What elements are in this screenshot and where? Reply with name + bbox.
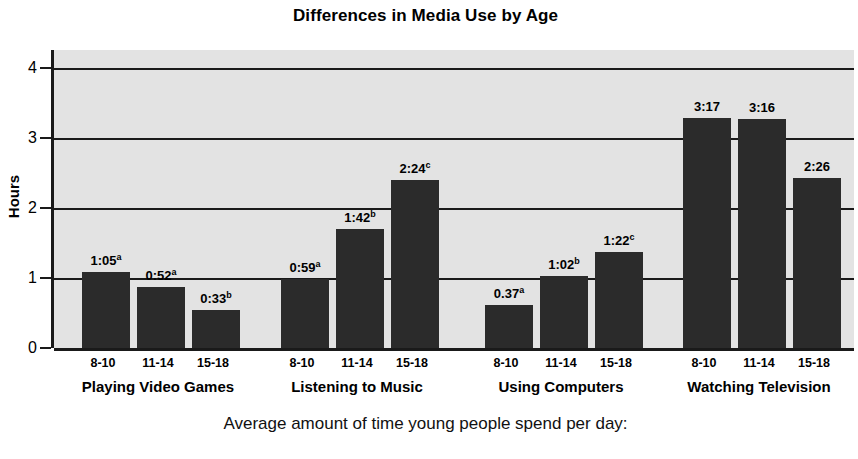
age-tick-label: 15-18 [183,355,243,371]
age-tick-label: 8-10 [73,355,133,371]
bar [738,119,786,348]
y-tick-3: 3 [0,128,51,148]
bar [391,180,439,348]
gridline-4 [54,68,854,70]
bar-value-label: 0:59a [269,261,341,275]
bar-value-label: 1:42b [324,211,396,225]
y-tick-mark-4 [40,67,51,69]
age-tick-label: 11-14 [128,355,188,371]
gridline-3 [54,138,854,140]
y-tick-label-4: 4 [28,58,37,78]
y-tick-mark-2 [40,207,51,209]
chart-title: Differences in Media Use by Age [0,6,851,26]
group-label: Watching Television [609,377,858,397]
bar-value-label: 1:02b [528,258,600,272]
y-tick-label-0: 0 [28,338,37,358]
age-tick-label: 8-10 [476,355,536,371]
y-tick-mark-1 [40,277,51,279]
bar [540,276,588,348]
bar [281,279,329,348]
bar [336,229,384,348]
bar [82,272,130,348]
bar-value-label: 0:52a [125,269,197,283]
y-tick-label-2: 2 [28,198,37,218]
age-tick-label: 15-18 [382,355,442,371]
plot-area: 1:05a0:52a0:33b0:59a1:42b2:24c0.37a1:02b… [51,50,854,348]
age-tick-label: 11-14 [531,355,591,371]
y-tick-label-3: 3 [28,128,37,148]
bar-value-label: 1:22c [583,234,655,248]
bar-value-label: 1:05a [70,254,142,268]
bar [595,252,643,348]
gridline-0 [54,348,854,351]
y-tick-0: 0 [0,338,51,358]
age-tick-label: 15-18 [784,355,844,371]
gridline-2 [54,208,854,210]
bar-value-label: 0:33b [180,292,252,306]
age-tick-label: 8-10 [272,355,332,371]
bar [192,310,240,349]
y-tick-1: 1 [0,268,51,288]
bar [683,118,731,348]
bar [793,178,841,348]
y-tick-mark-0 [40,347,51,349]
bar-value-label: 2:26 [781,160,853,174]
y-tick-label-1: 1 [28,268,37,288]
chart-caption: Average amount of time young people spen… [0,414,851,434]
bar [137,287,185,348]
bar-value-label: 3:16 [726,101,798,115]
age-tick-label: 11-14 [327,355,387,371]
bar-value-label: 0.37a [473,287,545,301]
y-tick-2: 2 [0,198,51,218]
y-tick-mark-3 [40,137,51,139]
age-tick-label: 11-14 [729,355,789,371]
y-tick-4: 4 [0,58,51,78]
age-tick-label: 8-10 [674,355,734,371]
bar-value-label: 2:24c [379,162,451,176]
age-tick-label: 15-18 [586,355,646,371]
bar [485,305,533,348]
